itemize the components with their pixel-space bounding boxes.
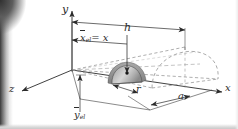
label-x-el-equals-x: xel= x (80, 33, 109, 44)
label-y-el: yel (74, 110, 85, 121)
y-el-subscript: el (80, 113, 86, 120)
axis-label-y: y (62, 4, 68, 15)
x-el-symbol: x (80, 32, 86, 43)
half-cone-body (72, 47, 218, 88)
half-cone-centroid-diagram (0, 0, 238, 129)
y-el-symbol: y (74, 109, 80, 120)
differential-element (108, 35, 146, 84)
axis-label-x: x (225, 83, 231, 93)
dimension-label-h: h (124, 22, 131, 33)
page-right-shadow (235, 0, 238, 129)
dimension-r (113, 85, 138, 93)
axis-label-z: z (9, 84, 14, 94)
r-dimension-line (113, 85, 138, 93)
dimension-label-r: r (136, 84, 141, 94)
page-bottom-shadow (0, 124, 238, 129)
dimension-label-a: a (178, 91, 184, 101)
x-el-equation-rhs: = x (91, 32, 108, 43)
axis-z (22, 70, 72, 91)
axis-x (72, 70, 222, 92)
